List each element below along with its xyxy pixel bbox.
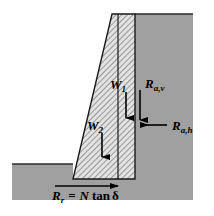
figure-canvas: W1 W2 Ra,v Ra,h Rr=Ntanδ bbox=[0, 0, 214, 216]
retaining-wall-figure: W1 W2 Ra,v Ra,h Rr=Ntanδ bbox=[0, 0, 214, 216]
